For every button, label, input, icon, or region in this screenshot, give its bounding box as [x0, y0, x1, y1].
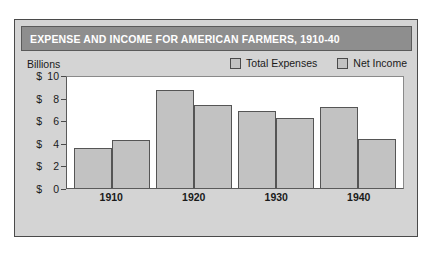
plot-wrapper: $10 $8 $6 $4 $2 $0 [21, 76, 412, 231]
currency-symbol: $ [36, 70, 42, 82]
chart-title: EXPENSE AND INCOME FOR AMERICAN FARMERS,… [22, 33, 340, 45]
y-tick-label: $10 [36, 70, 59, 82]
x-axis-tick-labels: 1910 1920 1930 1940 [66, 191, 404, 203]
bar-net-income-1940 [358, 139, 396, 188]
x-tick-label-1920: 1920 [156, 191, 232, 203]
bar-group-1940 [320, 77, 396, 188]
bars-container [67, 77, 403, 188]
y-axis-units-label: Billions [27, 58, 60, 70]
y-axis-tick-labels: $10 $8 $6 $4 $2 $0 [21, 76, 61, 189]
plot-area [66, 76, 404, 189]
y-tick-label: $4 [36, 138, 59, 150]
y-tick-label: $0 [36, 183, 59, 195]
tick-value: 10 [45, 70, 59, 82]
x-tick-label-1910: 1910 [73, 191, 149, 203]
bar-total-expenses-1930 [238, 111, 276, 188]
legend-item-total-expenses: Total Expenses [230, 57, 317, 69]
chart-legend: Total Expenses Net Income [195, 57, 407, 69]
currency-symbol: $ [36, 138, 42, 150]
currency-symbol: $ [36, 115, 42, 127]
legend-item-net-income: Net Income [337, 57, 407, 69]
legend-label-total-expenses: Total Expenses [246, 57, 317, 69]
tick-value: 0 [45, 183, 59, 195]
bar-net-income-1910 [112, 140, 150, 188]
legend-swatch-icon [230, 58, 241, 69]
legend-swatch-icon [337, 58, 348, 69]
chart-title-bar: EXPENSE AND INCOME FOR AMERICAN FARMERS,… [21, 26, 412, 51]
legend-label-net-income: Net Income [353, 57, 407, 69]
bar-net-income-1930 [276, 118, 314, 188]
y-tick-mark [61, 189, 66, 190]
currency-symbol: $ [36, 183, 42, 195]
tick-value: 2 [45, 160, 59, 172]
tick-value: 8 [45, 93, 59, 105]
x-tick-label-1930: 1930 [238, 191, 314, 203]
y-tick-label: $2 [36, 160, 59, 172]
currency-symbol: $ [36, 93, 42, 105]
tick-value: 4 [45, 138, 59, 150]
y-tick-label: $6 [36, 115, 59, 127]
bar-total-expenses-1920 [156, 90, 194, 188]
bar-group-1920 [156, 77, 232, 188]
chart-panel: EXPENSE AND INCOME FOR AMERICAN FARMERS,… [14, 19, 418, 237]
currency-symbol: $ [36, 160, 42, 172]
bar-net-income-1920 [194, 105, 232, 188]
bar-group-1910 [74, 77, 150, 188]
bar-total-expenses-1910 [74, 148, 112, 188]
x-tick-label-1940: 1940 [321, 191, 397, 203]
bar-group-1930 [238, 77, 314, 188]
y-tick-label: $8 [36, 93, 59, 105]
tick-value: 6 [45, 115, 59, 127]
bar-total-expenses-1940 [320, 107, 358, 188]
